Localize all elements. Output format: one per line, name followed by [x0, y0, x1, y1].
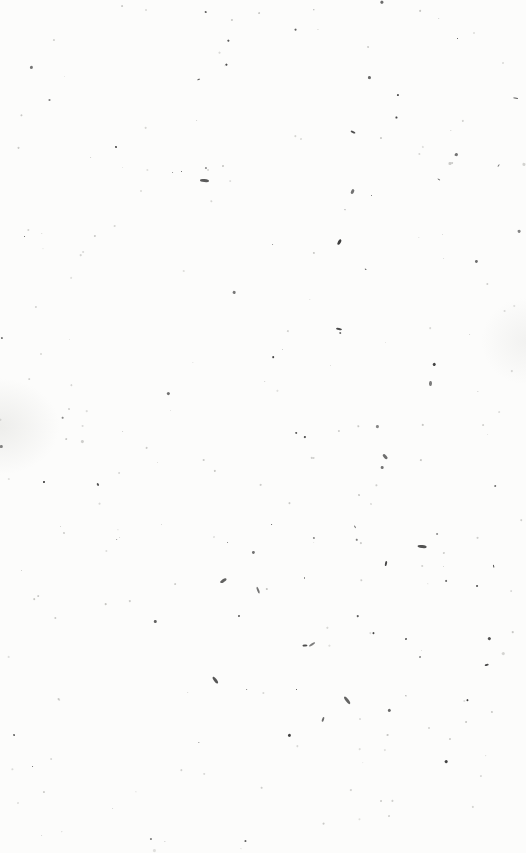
paper-speck	[238, 615, 240, 617]
paper-speck	[60, 831, 62, 833]
paper-speck	[27, 377, 30, 380]
paper-speck	[261, 786, 263, 788]
paper-speck	[105, 550, 107, 552]
paper-speck	[303, 435, 305, 437]
paper-speck	[104, 603, 106, 605]
paper-speck	[40, 353, 43, 356]
paper-speck	[357, 494, 359, 496]
paper-speck	[294, 135, 297, 138]
paper-speck	[329, 364, 331, 366]
paper-speck	[396, 93, 398, 95]
paper-speck	[262, 692, 265, 695]
paper-speck	[418, 237, 420, 239]
paper-speck	[33, 598, 36, 601]
paper-speck	[50, 757, 53, 760]
paper-speck	[337, 239, 342, 245]
paper-speck	[263, 381, 265, 383]
paper-speck	[90, 157, 92, 159]
paper-speck	[145, 446, 147, 448]
paper-speck	[60, 526, 61, 527]
paper-speck	[492, 565, 494, 568]
paper-speck	[466, 698, 469, 701]
paper-speck	[485, 664, 489, 667]
paper-speck	[510, 370, 512, 372]
paper-speck	[187, 691, 189, 693]
paper-speck	[385, 342, 386, 343]
paper-speck	[134, 791, 136, 793]
paper-speck	[442, 566, 444, 568]
paper-speck	[344, 696, 351, 705]
paper-speck	[295, 29, 297, 31]
paper-speck	[21, 570, 22, 571]
paper-speck	[256, 586, 261, 593]
paper-speck	[225, 64, 227, 66]
paper-speck	[68, 408, 70, 410]
paper-speck	[493, 485, 496, 488]
paper-speck	[422, 424, 424, 426]
paper-speck	[212, 535, 215, 538]
paper-speck	[179, 768, 182, 771]
paper-speck	[183, 269, 185, 271]
paper-speck	[309, 641, 316, 647]
paper-speck	[312, 9, 314, 11]
paper-speck	[358, 817, 361, 820]
paper-speck	[69, 339, 70, 340]
paper-speck	[504, 310, 506, 312]
paper-speck	[96, 482, 99, 486]
paper-speck	[313, 456, 315, 458]
paper-speck	[52, 38, 55, 41]
paper-speck	[29, 65, 32, 68]
paper-speck	[418, 544, 427, 547]
paper-speck	[405, 638, 408, 641]
paper-speck	[396, 117, 398, 119]
paper-speck	[465, 721, 467, 723]
paper-speck	[115, 146, 118, 149]
paper-speck	[246, 689, 247, 690]
paper-speck	[308, 299, 310, 301]
paper-speck	[391, 800, 393, 802]
paper-speck	[164, 840, 166, 842]
paper-speck	[296, 689, 297, 690]
paper-speck	[227, 542, 228, 543]
paper-speck	[203, 773, 206, 776]
paper-speck	[296, 745, 299, 748]
paper-speck	[42, 248, 44, 250]
paper-speck	[157, 462, 158, 463]
paper-speck	[117, 529, 119, 531]
paper-speck	[477, 537, 479, 539]
paper-speck	[442, 234, 443, 235]
paper-speck	[252, 551, 255, 554]
paper-speck	[63, 532, 66, 535]
paper-speck	[232, 290, 236, 294]
paper-speck	[111, 808, 113, 810]
paper-speck	[17, 147, 19, 149]
paper-speck	[8, 656, 10, 658]
paper-speck	[170, 410, 171, 411]
paper-speck	[140, 190, 142, 192]
paper-speck	[367, 46, 369, 48]
paper-speck	[360, 542, 363, 545]
paper-speck	[457, 38, 458, 39]
paper-speck	[477, 390, 479, 392]
paper-speck	[145, 127, 147, 129]
paper-speck	[512, 305, 515, 308]
paper-speck	[371, 631, 374, 634]
paper-speck	[472, 31, 475, 34]
paper-speck	[385, 560, 387, 565]
paper-speck	[27, 229, 30, 232]
paper-speck	[497, 411, 500, 414]
paper-speck	[36, 595, 39, 598]
paper-speck	[432, 362, 436, 366]
paper-speck	[443, 258, 445, 260]
paper-speck	[300, 138, 303, 141]
paper-speck	[94, 235, 96, 237]
paper-speck	[371, 195, 372, 196]
paper-surface	[0, 0, 526, 853]
paper-speck	[69, 384, 72, 387]
paper-speck	[197, 78, 200, 80]
paper-speck	[481, 423, 484, 426]
paper-speck	[419, 9, 422, 12]
paper-speck	[438, 17, 440, 19]
paper-speck	[422, 146, 425, 149]
paper-speck	[270, 524, 272, 526]
